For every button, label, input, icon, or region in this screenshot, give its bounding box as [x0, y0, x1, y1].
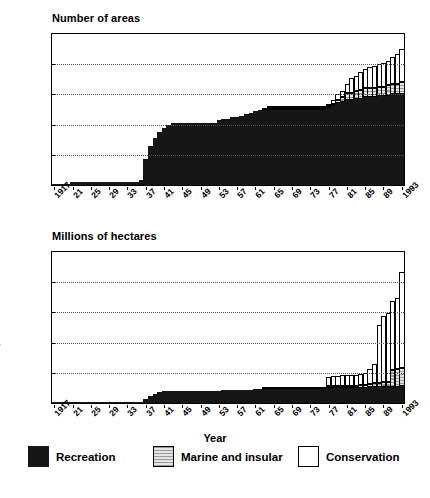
chart-legend: RecreationMarine and insularConservation: [0, 446, 430, 486]
chart-number-of-areas: Number of areas 020406080100 19172125293…: [0, 0, 430, 222]
legend-label: Marine and insular: [181, 451, 283, 463]
bar-segment-marine-and-insular: [399, 82, 404, 94]
plot-area-millions-of-hectares: [51, 251, 405, 404]
chart-title-millions-of-hectares: Millions of hectares: [52, 230, 157, 242]
bar-segment-marine-and-insular: [399, 368, 404, 386]
plot-area-number-of-areas: [51, 33, 405, 186]
legend-item[interactable]: Conservation: [298, 446, 400, 467]
x-axis-caption: Year: [0, 432, 430, 444]
bar-group-number-of-areas: [52, 34, 404, 185]
gridline: [52, 312, 404, 313]
bar-segment-recreation: [399, 94, 404, 185]
y-axis-tick-mark: [51, 94, 55, 95]
bar-segment-conservation: [399, 272, 404, 369]
legend-swatch-recreation: [28, 446, 49, 467]
y-axis-tick-mark: [51, 312, 55, 313]
legend-swatch-conservation: [298, 446, 319, 467]
legend-item[interactable]: Recreation: [28, 446, 115, 467]
legend-label: Conservation: [326, 451, 400, 463]
bar-segment-recreation: [399, 386, 404, 403]
y-axis-tick-mark: [51, 343, 55, 344]
y-axis-tick-mark: [51, 282, 55, 283]
y-axis-tick-mark: [51, 125, 55, 126]
y-axis-tick-mark: [51, 64, 55, 65]
bar: [399, 49, 404, 185]
gridline: [52, 125, 404, 126]
y-axis-tick-mark: [51, 155, 55, 156]
bar-segment-conservation: [399, 49, 404, 82]
gridline: [52, 373, 404, 374]
bar-group-millions-of-hectares: [52, 252, 404, 403]
gridline: [52, 94, 404, 95]
legend-swatch-marine-and-insular: [153, 446, 174, 467]
legend-item[interactable]: Marine and insular: [153, 446, 283, 467]
legend-label: Recreation: [56, 451, 115, 463]
y-axis-tick-mark: [51, 373, 55, 374]
bar: [399, 272, 404, 403]
chart-millions-of-hectares: Millions of hectares 0246810 19172125293…: [0, 228, 430, 440]
chart-title-number-of-areas: Number of areas: [52, 12, 140, 24]
gridline: [52, 64, 404, 65]
gridline: [52, 343, 404, 344]
gridline: [52, 155, 404, 156]
gridline: [52, 282, 404, 283]
